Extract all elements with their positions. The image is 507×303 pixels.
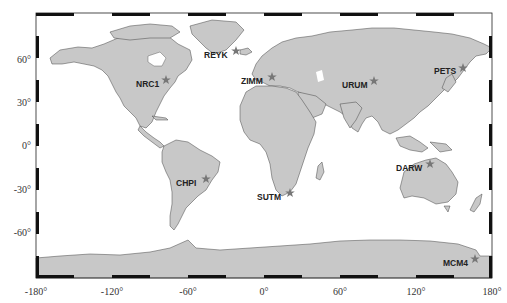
station-label: CHPI (176, 178, 196, 188)
north-america (50, 32, 192, 128)
x-tick-label: 180° (483, 286, 502, 297)
y-tick-label: -30° (14, 184, 31, 195)
station-label: PETS (434, 66, 457, 76)
y-axis-labels: 60° 30° 0° -30° -60° (14, 54, 31, 238)
x-tick-label: -60° (179, 286, 196, 297)
star-icon (231, 46, 241, 55)
x-axis-labels: -180° -120° -60° 0° 60° 120° 180° (25, 286, 502, 297)
x-tick-label: -120° (101, 286, 123, 297)
x-tick-label: 60° (333, 286, 347, 297)
station-label: SUTM (257, 192, 281, 202)
y-tick-label: 30° (17, 97, 31, 108)
land-masses (36, 20, 492, 278)
x-tick-label: 0° (260, 286, 269, 297)
x-tick-label: -180° (25, 286, 47, 297)
station-label: DARW (396, 163, 423, 173)
station-label: ZIMM (241, 76, 263, 86)
station-label: URUM (342, 80, 368, 90)
station-label: MCM4 (443, 258, 468, 268)
antarctica (36, 240, 492, 278)
x-tick-label: 120° (407, 286, 426, 297)
y-tick-label: 0° (22, 140, 31, 151)
world-map: -180° -120° -60° 0° 60° 120° 180° 60° 30… (0, 0, 507, 303)
y-tick-label: -60° (14, 227, 31, 238)
station-label: NRC1 (136, 79, 159, 89)
y-tick-label: 60° (17, 54, 31, 65)
station-label: REYK (204, 50, 228, 60)
